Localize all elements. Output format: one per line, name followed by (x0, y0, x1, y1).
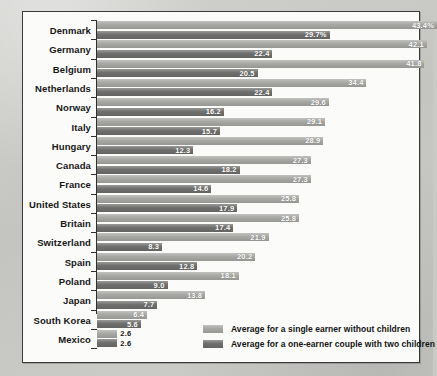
bar-value-label: 29.6 (311, 98, 329, 107)
legend-swatch-dark (203, 340, 223, 348)
axis-tick (91, 155, 97, 156)
bar-value-label: 15.7 (202, 127, 220, 136)
bar-row: Switzerland21.98.3 (23, 233, 419, 252)
bar-row: Canada27.318.2 (23, 156, 419, 175)
bar-single-earner: 27.3 (97, 156, 311, 164)
bar-group: 29.115.7 (97, 118, 419, 137)
bar-value-label: 18.2 (221, 165, 239, 174)
bar-value-label: 27.3 (293, 175, 311, 184)
bar-value-label: 20.2 (237, 252, 255, 261)
bar-one-earner-couple: 7.7 (97, 301, 157, 309)
bar-one-earner-couple: 2.6 (97, 339, 117, 347)
bar-row: Spain20.212.8 (23, 253, 419, 272)
category-label-britain: Britain (23, 214, 96, 233)
bar-row: Germany42.122.4 (23, 40, 419, 59)
axis-tick (91, 329, 97, 330)
bar-value-label: 41.8 (406, 59, 424, 68)
bar-row: Netherlands34.422.4 (23, 79, 419, 98)
bar-one-earner-couple: 8.3 (97, 243, 162, 251)
category-label-united-states: United States (23, 195, 96, 214)
bar-row: Hungary28.912.3 (23, 137, 419, 156)
category-label-hungary: Hungary (23, 137, 96, 156)
bar-row: Norway29.616.2 (23, 98, 419, 117)
bar-row: Poland18.19.0 (23, 272, 419, 291)
bar-value-label: 42.1 (409, 40, 427, 49)
category-label-italy: Italy (23, 118, 96, 137)
axis-tick (91, 97, 97, 98)
bar-value-label: 18.1 (221, 271, 239, 280)
category-label-poland: Poland (23, 272, 96, 291)
axis-tick (91, 252, 97, 253)
legend-item-one-earner-couple: Average for a one-earner couple with two… (203, 336, 411, 351)
axis-tick (91, 174, 97, 175)
bar-value-label: 12.3 (175, 146, 193, 155)
bar-value-label: 13.8 (187, 291, 205, 300)
axis-tick (91, 271, 97, 272)
chart-plot-area: Denmark43.4%29.7%Germany42.122.4Belgium4… (23, 12, 419, 362)
bar-value-label: 20.5 (239, 69, 257, 78)
category-label-belgium: Belgium (23, 60, 96, 79)
bar-value-label: 29.1 (307, 117, 325, 126)
axis-tick (91, 59, 97, 60)
axis-tick (91, 39, 97, 40)
bar-value-label: 22.4 (254, 88, 272, 97)
bar-value-label: 2.6 (120, 329, 131, 338)
bar-row: Britain25.817.4 (23, 214, 419, 233)
bar-group: 25.817.9 (97, 195, 419, 214)
bar-one-earner-couple: 18.2 (97, 166, 240, 174)
category-label-japan: Japan (23, 291, 96, 310)
bar-one-earner-couple: 17.9 (97, 204, 237, 212)
bar-value-label: 5.6 (127, 320, 141, 329)
axis-tick (91, 348, 97, 349)
bar-one-earner-couple: 14.6 (97, 185, 211, 193)
axis-tick (91, 117, 97, 118)
bar-row: Italy29.115.7 (23, 118, 419, 137)
bar-value-label: 12.8 (179, 262, 197, 271)
bar-group: 21.98.3 (97, 233, 419, 252)
axis-tick (91, 20, 97, 21)
axis-tick (91, 290, 97, 291)
bar-single-earner: 29.6 (97, 98, 329, 106)
category-label-netherlands: Netherlands (23, 79, 96, 98)
axis-tick (91, 78, 97, 79)
bar-group: 29.616.2 (97, 98, 419, 117)
legend-item-single-earner: Average for a single earner without chil… (203, 321, 411, 336)
bar-single-earner: 2.6 (97, 330, 117, 338)
bar-single-earner: 13.8 (97, 291, 205, 299)
bar-single-earner: 43.4% (97, 21, 437, 29)
bar-group: 27.314.6 (97, 175, 419, 194)
bar-value-label: 17.4 (215, 223, 233, 232)
bar-one-earner-couple: 22.4 (97, 88, 272, 96)
axis-tick (91, 194, 97, 195)
bar-row: France27.314.6 (23, 175, 419, 194)
category-label-switzerland: Switzerland (23, 233, 96, 252)
bar-single-earner: 25.8 (97, 195, 299, 203)
bar-value-label: 25.8 (281, 214, 299, 223)
bar-single-earner: 28.9 (97, 137, 323, 145)
bar-value-label: 2.6 (120, 339, 131, 348)
bar-row: Japan13.87.7 (23, 291, 419, 310)
bar-group: 13.87.7 (97, 291, 419, 310)
bar-value-label: 8.3 (148, 242, 162, 251)
bar-value-label: 43.4% (412, 21, 437, 30)
bar-value-label: 16.2 (206, 107, 224, 116)
bar-one-earner-couple: 29.7% (97, 31, 330, 39)
bar-value-label: 14.6 (193, 184, 211, 193)
bar-single-earner: 34.4 (97, 79, 366, 87)
bar-value-label: 17.9 (219, 204, 237, 213)
bar-value-label: 22.4 (254, 49, 272, 58)
bar-group: 41.820.5 (97, 60, 419, 79)
bar-value-label: 9.0 (154, 281, 168, 290)
bar-one-earner-couple: 12.8 (97, 262, 197, 270)
bar-value-label: 21.9 (250, 233, 268, 242)
chart-panel: Denmark43.4%29.7%Germany42.122.4Belgium4… (22, 11, 420, 363)
bar-single-earner: 25.8 (97, 214, 299, 222)
bar-one-earner-couple: 22.4 (97, 50, 272, 58)
bar-one-earner-couple: 15.7 (97, 127, 220, 135)
category-label-spain: Spain (23, 253, 96, 272)
bar-group: 43.4%29.7% (97, 21, 419, 40)
category-label-denmark: Denmark (23, 21, 96, 40)
category-label-mexico: Mexico (23, 330, 96, 349)
legend-label-single-earner: Average for a single earner without chil… (231, 324, 410, 334)
bar-single-earner: 42.1 (97, 40, 427, 48)
